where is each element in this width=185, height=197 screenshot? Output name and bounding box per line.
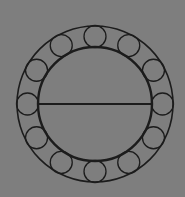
ball: [152, 93, 174, 115]
ball: [17, 93, 39, 115]
bearing-diagram: [0, 0, 185, 197]
ball: [84, 26, 106, 48]
ball: [84, 161, 106, 183]
diagram-canvas: [0, 0, 185, 197]
